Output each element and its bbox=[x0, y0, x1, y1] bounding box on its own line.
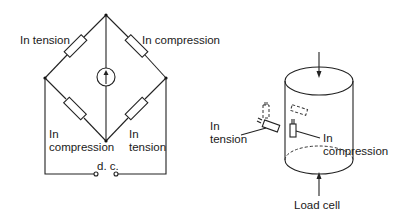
label-load-compression-2: compression bbox=[323, 145, 388, 157]
galvanometer-icon bbox=[97, 68, 115, 86]
resistor-top-right bbox=[106, 15, 166, 78]
leader-compression bbox=[296, 131, 320, 138]
label-bottom-right-2: tension bbox=[129, 141, 166, 153]
cylinder-bottom-front bbox=[285, 160, 353, 174]
label-bottom-left-2: compression bbox=[49, 141, 114, 153]
reaction-arrow-up-icon bbox=[317, 172, 322, 196]
label-dc-supply: d. c. bbox=[97, 160, 119, 172]
load-arrow-down-icon bbox=[317, 52, 322, 78]
label-top-left: In tension bbox=[20, 34, 70, 46]
wheatstone-bridge: In tension In compression In compression… bbox=[20, 13, 220, 176]
gauge-back-vertical bbox=[263, 100, 269, 118]
load-cell: In tension In compression Load cell bbox=[210, 52, 388, 211]
label-bottom-right-1: In bbox=[129, 128, 139, 140]
label-bottom-left-1: In bbox=[49, 128, 59, 140]
label-load-tension-1: In bbox=[210, 120, 220, 132]
gauge-back-horizontal bbox=[290, 105, 307, 116]
resistor-top-left bbox=[45, 15, 106, 78]
label-load-cell-caption: Load cell bbox=[294, 199, 340, 211]
label-load-tension-2: tension bbox=[210, 133, 247, 145]
label-load-compression-1: In bbox=[323, 132, 333, 144]
strain-gauge-diagram: In tension In compression In compression… bbox=[0, 0, 404, 219]
gauge-front-compression bbox=[290, 119, 296, 137]
label-top-right: In compression bbox=[142, 34, 220, 46]
